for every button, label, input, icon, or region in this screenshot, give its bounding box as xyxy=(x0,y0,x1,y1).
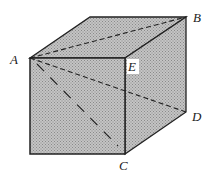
cube-diagram: A B C D E xyxy=(0,0,214,174)
cube-front-face xyxy=(30,58,125,154)
label-a: A xyxy=(9,52,18,67)
label-c: C xyxy=(119,158,128,173)
label-d: D xyxy=(191,109,202,124)
label-b: B xyxy=(193,10,201,25)
label-e: E xyxy=(127,59,136,74)
